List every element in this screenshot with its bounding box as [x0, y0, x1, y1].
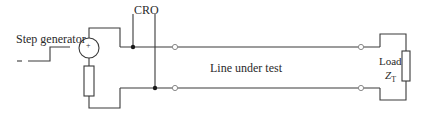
line-under-test-label: Line under test: [210, 62, 282, 74]
terminal-left-bottom-icon: [172, 85, 177, 90]
load-impedance-label: ZT: [385, 70, 396, 84]
load-label: Load: [379, 56, 402, 67]
source-resistor-icon: [84, 66, 94, 96]
cro-junction-top-icon: [131, 45, 135, 49]
cro-label: CRO: [134, 4, 159, 16]
load-impedance-subscript: T: [391, 75, 396, 84]
source-polarity-label: +: [86, 42, 91, 50]
load-resistor-icon: [402, 51, 410, 81]
terminal-left-top-icon: [172, 44, 177, 49]
load-top-wire: [380, 34, 406, 51]
step-generator-label: Step generator: [16, 33, 86, 45]
step-waveform-icon: [28, 47, 70, 61]
terminal-right-bottom-icon: [358, 85, 363, 90]
cro-junction-bottom-icon: [153, 86, 157, 90]
terminal-right-top-icon: [358, 44, 363, 49]
circuit-diagram: [0, 0, 427, 118]
